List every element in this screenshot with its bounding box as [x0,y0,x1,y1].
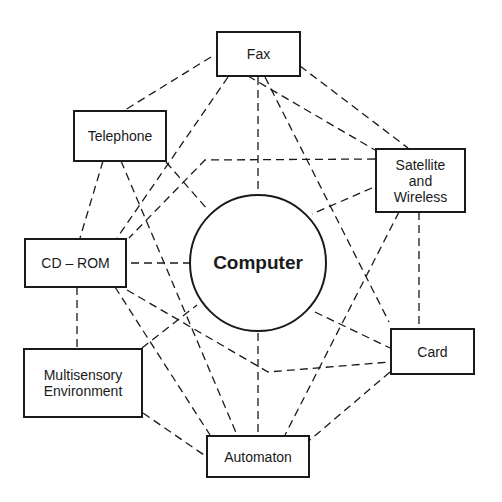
fax-label: Fax [247,46,270,62]
automaton-label: Automaton [224,449,292,465]
node-fax: Fax [216,31,301,77]
node-card: Card [390,328,475,375]
node-multisensory-environment: Multisensory Environment [23,348,143,418]
node-cd-rom: CD – ROM [24,238,127,288]
cd-rom-label: CD – ROM [41,255,109,271]
card-label: Card [417,344,447,360]
multisensory-label: Multisensory Environment [44,367,123,399]
computer-label: Computer [213,252,303,274]
node-satellite-wireless: Satellite and Wireless [375,148,466,213]
node-automaton: Automaton [206,435,310,478]
satellite-label: Satellite and Wireless [394,157,448,205]
telephone-label: Telephone [88,128,153,144]
computer-hub: Computer [189,194,327,332]
node-telephone: Telephone [73,110,167,162]
